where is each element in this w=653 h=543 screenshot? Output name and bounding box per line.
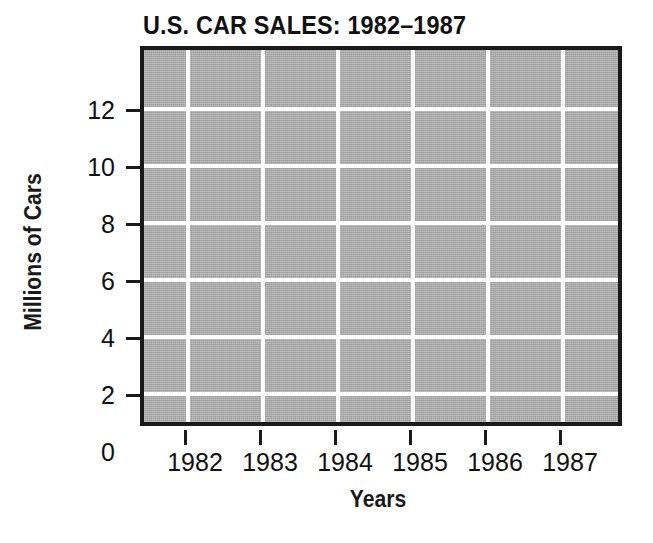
xtick-label-1982: 1982 bbox=[155, 450, 235, 475]
xtick-label-1985: 1985 bbox=[380, 450, 460, 475]
xtick-mark-1984 bbox=[334, 430, 337, 445]
gridline-x-1984 bbox=[336, 50, 340, 422]
gridline-y-12 bbox=[144, 107, 618, 111]
gridline-x-1982 bbox=[186, 50, 190, 422]
xtick-mark-1982 bbox=[184, 430, 187, 445]
ytick-label-12: 12 bbox=[75, 98, 115, 123]
ytick-label-8: 8 bbox=[75, 212, 115, 237]
ytick-label-0: 0 bbox=[75, 440, 115, 465]
gridline-y-4 bbox=[144, 335, 618, 339]
chart-title: U.S. CAR SALES: 1982–1987 bbox=[143, 8, 575, 42]
ytick-label-2: 2 bbox=[75, 383, 115, 408]
xtick-label-1987: 1987 bbox=[530, 450, 610, 475]
gridline-y-2 bbox=[144, 392, 618, 396]
xtick-label-1984: 1984 bbox=[305, 450, 385, 475]
ytick-mark-4 bbox=[126, 337, 141, 340]
ytick-mark-12 bbox=[126, 109, 141, 112]
gridline-x-1986 bbox=[486, 50, 490, 422]
plot-area bbox=[140, 46, 622, 426]
x-axis-title: Years bbox=[304, 485, 451, 513]
xtick-mark-1987 bbox=[559, 430, 562, 445]
gridline-x-1987 bbox=[561, 50, 565, 422]
xtick-label-1983: 1983 bbox=[230, 450, 310, 475]
chart-figure: U.S. CAR SALES: 1982–1987 12 10 8 6 4 2 … bbox=[0, 0, 653, 543]
ytick-label-10: 10 bbox=[75, 155, 115, 180]
xtick-label-1986: 1986 bbox=[455, 450, 535, 475]
plot-background-fill bbox=[144, 50, 618, 422]
gridline-x-1983 bbox=[261, 50, 265, 422]
gridline-y-10 bbox=[144, 164, 618, 168]
ytick-mark-2 bbox=[126, 394, 141, 397]
xtick-mark-1986 bbox=[484, 430, 487, 445]
ytick-label-4: 4 bbox=[75, 326, 115, 351]
ytick-label-6: 6 bbox=[75, 269, 115, 294]
ytick-mark-8 bbox=[126, 223, 141, 226]
gridline-x-1985 bbox=[411, 50, 415, 422]
xtick-mark-1985 bbox=[409, 430, 412, 445]
gridline-y-8 bbox=[144, 221, 618, 225]
gridline-y-6 bbox=[144, 278, 618, 282]
xtick-mark-1983 bbox=[259, 430, 262, 445]
ytick-mark-10 bbox=[126, 166, 141, 169]
ytick-mark-6 bbox=[126, 280, 141, 283]
y-axis-title: Millions of Cars bbox=[18, 142, 48, 363]
